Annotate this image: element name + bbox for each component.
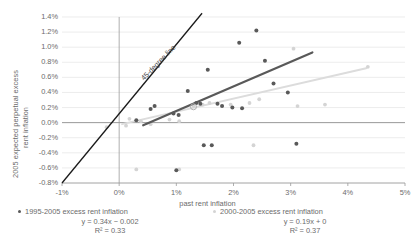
data-point-series-1	[254, 29, 258, 33]
legend-marker-series-1	[18, 210, 22, 214]
data-point-series-1	[220, 104, 224, 108]
data-point-series-2	[128, 117, 132, 121]
x-axis-tick-label: 3%	[285, 188, 296, 197]
data-point-series-2	[323, 103, 327, 107]
legend-item-series-2[interactable]: 2000-2005 excess rent inflation y = 0.19…	[213, 207, 398, 235]
legend-item-series-1[interactable]: 1995-2005 excess rent inflation y = 0.34…	[18, 207, 203, 235]
data-point-series-1	[134, 118, 138, 122]
x-axis-tick-label: 5%	[400, 188, 411, 197]
x-axis-tick-label: 1%	[171, 188, 182, 197]
legend-equation-series-1: y = 0.34x − 0.002	[18, 217, 203, 226]
data-point-series-1	[230, 106, 234, 110]
trendline-series-1	[143, 52, 312, 125]
data-point-series-2	[296, 104, 300, 108]
x-axis-tick-label: -1%	[55, 188, 68, 197]
data-point-series-1	[186, 89, 190, 93]
data-point-series-2	[139, 119, 143, 123]
data-point-series-1	[263, 59, 267, 63]
x-axis-tick-label: 2%	[228, 188, 239, 197]
x-axis-tick-label: 0%	[114, 188, 125, 197]
legend-label-series-2: 2000-2005 excess rent inflation	[220, 207, 323, 216]
data-point-series-2	[292, 47, 296, 51]
scatter-chart: 2005 expected perpetual excess rent infl…	[0, 0, 415, 240]
data-point-series-1	[240, 106, 244, 110]
data-point-series-1	[210, 143, 214, 147]
data-point-series-1	[294, 142, 298, 146]
data-point-series-2	[177, 119, 181, 123]
data-point-series-2	[134, 168, 138, 172]
legend-r2-series-2: R² = 0.37	[213, 226, 398, 235]
data-point-series-2	[248, 101, 252, 105]
data-point-series-1	[215, 102, 219, 106]
data-point-series-2	[366, 65, 370, 69]
data-point-series-2	[168, 118, 172, 122]
data-point-series-1	[202, 143, 206, 147]
x-axis-tick-label: 4%	[342, 188, 353, 197]
data-point-series-1	[286, 90, 290, 94]
data-point-series-2	[252, 143, 256, 147]
data-point-series-1	[206, 68, 210, 72]
data-point-series-1	[237, 41, 241, 45]
data-point-series-1	[153, 104, 157, 108]
data-point-series-2	[257, 97, 261, 101]
data-point-series-1	[177, 113, 181, 117]
reference-line-45-degree	[62, 13, 202, 183]
data-point-series-1	[149, 107, 153, 111]
legend-r2-series-1: R² = 0.33	[18, 226, 203, 235]
legend-equation-series-2: y = 0.19x + 0	[213, 217, 398, 226]
chart-legend: 1995-2005 excess rent inflation y = 0.34…	[0, 207, 415, 235]
legend-label-series-1: 1995-2005 excess rent inflation	[25, 207, 128, 216]
data-point-series-1	[171, 112, 175, 116]
trendline-series-2	[122, 68, 366, 124]
data-point-series-2	[124, 124, 128, 128]
data-point-series-2	[208, 101, 212, 105]
data-point-series-1	[272, 81, 276, 85]
data-point-series-1	[174, 168, 178, 172]
legend-marker-series-2	[213, 210, 217, 214]
data-point-series-1	[198, 102, 202, 106]
